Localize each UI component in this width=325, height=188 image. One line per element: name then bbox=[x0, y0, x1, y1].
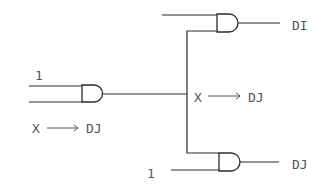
bottom-input-1-label: 1 bbox=[147, 166, 155, 181]
mid-note-x-label: X bbox=[194, 90, 202, 105]
logic-diagram: 1 X DJ X DJ DI DJ 1 bbox=[0, 0, 325, 188]
and-gate-left bbox=[82, 85, 103, 102]
top-output-label: DI bbox=[292, 18, 308, 33]
and-gate-bottom bbox=[219, 153, 240, 171]
mid-note-dj-label: DJ bbox=[248, 90, 264, 105]
branch-wire bbox=[187, 31, 219, 153]
left-input-1-label: 1 bbox=[35, 68, 43, 83]
bottom-output-label: DJ bbox=[292, 157, 308, 172]
left-note-dj-label: DJ bbox=[86, 121, 102, 136]
left-note-x-label: X bbox=[32, 121, 40, 136]
and-gate-top bbox=[217, 14, 238, 32]
